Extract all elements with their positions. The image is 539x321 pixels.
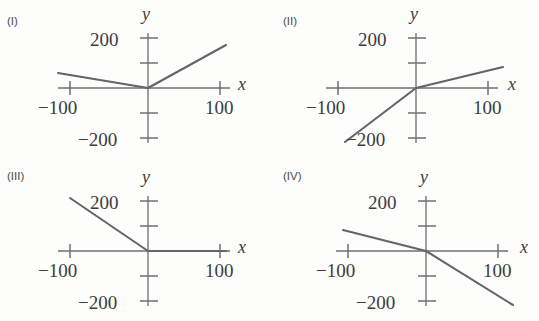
panel-ii: (II) x y 200 −200 −100 100 <box>270 0 539 160</box>
panel-iv-tag: (IV) <box>283 171 302 183</box>
panel-iv-ylabel-neg200: −200 <box>356 293 395 312</box>
panel-i-plot: x y 200 −200 −100 100 <box>30 5 270 155</box>
panel-iii-svg <box>30 168 270 318</box>
panel-ii-ylabel-200: 200 <box>358 30 387 49</box>
panel-iii-xlabel-100: 100 <box>205 261 234 280</box>
panel-iii: (III) x y 200 −200 −100 100 <box>0 160 270 321</box>
panel-i-xlabel-neg100: −100 <box>38 98 77 117</box>
panel-i-yaxis-label: y <box>142 5 150 23</box>
panel-ii-ylabel-neg200: −200 <box>346 130 385 149</box>
panel-iv-ylabel-200: 200 <box>368 193 397 212</box>
panel-ii-svg <box>298 5 538 155</box>
panel-ii-xlabel-100: 100 <box>473 98 502 117</box>
panel-iv: (IV) x y 200 −200 −100 100 <box>270 160 539 321</box>
panel-i: (I) x y 200 −200 −100 <box>0 0 270 160</box>
panel-i-ylabel-neg200: −200 <box>78 130 117 149</box>
panel-iv-svg <box>308 168 539 318</box>
panel-i-xlabel-100: 100 <box>205 98 234 117</box>
panel-iv-xaxis-label: x <box>520 238 528 256</box>
panel-iii-ylabel-neg200: −200 <box>78 293 117 312</box>
panel-iv-yaxis-label: y <box>420 168 428 186</box>
panel-iv-xlabel-100: 100 <box>483 261 512 280</box>
panel-i-tag: (I) <box>7 16 18 28</box>
panel-iii-yaxis-label: y <box>142 168 150 186</box>
panel-ii-tag: (II) <box>283 16 297 28</box>
panel-iii-xlabel-neg100: −100 <box>38 261 77 280</box>
panel-i-svg <box>30 5 270 155</box>
panel-i-xaxis-label: x <box>238 75 246 93</box>
panel-ii-yaxis-label: y <box>410 5 418 23</box>
panel-iii-tag: (III) <box>7 171 24 183</box>
panel-iii-xaxis-label: x <box>238 238 246 256</box>
panel-ii-xaxis-label: x <box>508 75 516 93</box>
panel-ii-plot: x y 200 −200 −100 100 <box>298 5 538 155</box>
figure-four-graphs: (I) x y 200 −200 −100 <box>0 0 539 321</box>
panel-ii-xlabel-neg100: −100 <box>306 98 345 117</box>
panel-iv-xlabel-neg100: −100 <box>316 261 355 280</box>
panel-i-ylabel-200: 200 <box>90 30 119 49</box>
panel-iv-plot: x y 200 −200 −100 100 <box>308 168 539 318</box>
panel-iii-plot: x y 200 −200 −100 100 <box>30 168 270 318</box>
panel-i-graph-line <box>58 45 226 88</box>
panel-iii-ylabel-200: 200 <box>90 193 119 212</box>
